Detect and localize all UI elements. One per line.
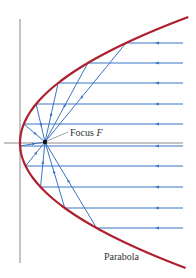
light-ray	[45, 42, 183, 143]
arrow-icon	[155, 62, 159, 65]
arrow-icon	[155, 123, 159, 126]
arrow-icon	[155, 165, 159, 168]
arrow-icon	[155, 145, 159, 148]
arrow-icon	[155, 82, 159, 85]
arrow-icon	[155, 42, 159, 45]
light-ray	[41, 142, 183, 189]
parabola-reflection-diagram: Focus F Parabola	[0, 0, 196, 278]
light-ray	[45, 62, 183, 143]
arrow-icon	[155, 186, 159, 189]
arrow-icon	[155, 227, 159, 230]
focus-variable: F	[95, 127, 103, 138]
light-ray	[45, 142, 183, 230]
parabola-label: Parabola	[104, 251, 140, 262]
arrow-icon	[155, 103, 159, 106]
arrow-icon	[155, 207, 159, 210]
focus-point	[43, 140, 47, 144]
focus-label: Focus F	[70, 127, 103, 138]
